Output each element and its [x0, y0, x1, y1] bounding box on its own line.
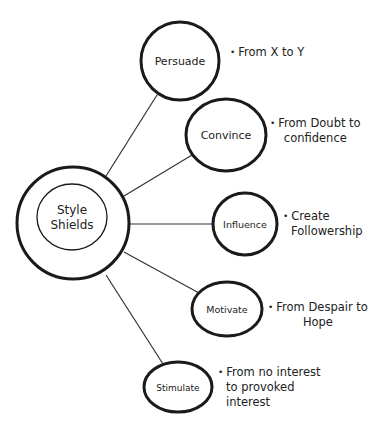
bullet-icon: • — [283, 211, 288, 221]
connector-motivate — [124, 252, 199, 293]
node-label-convince: Convince — [201, 129, 252, 142]
center-label-line1: Style — [57, 203, 87, 217]
note-line: to provoked — [218, 380, 321, 395]
node-label-stimulate: Stimulate — [156, 383, 200, 393]
node-label-persuade: Persuade — [155, 55, 206, 68]
note-stimulate: •From no interest to provoked interest — [218, 365, 321, 410]
note-line: From Despair to — [276, 300, 368, 314]
note-line: From X to Y — [238, 45, 304, 59]
note-motivate: •From Despair to Hope — [268, 300, 368, 330]
center-inner-circle — [37, 184, 107, 250]
connector-convince — [124, 155, 192, 196]
note-convince: •From Doubt to confidence — [270, 116, 361, 146]
node-label-influence: Influence — [223, 219, 267, 230]
note-line: Followership — [283, 224, 363, 239]
bullet-icon: • — [270, 118, 275, 128]
bullet-icon: • — [268, 302, 273, 312]
center-label-line2: Shields — [50, 218, 93, 232]
note-line: Hope — [268, 315, 368, 330]
bullet-icon: • — [230, 47, 235, 57]
note-line: From no interest — [226, 365, 320, 379]
note-line: From Doubt to — [278, 116, 360, 130]
note-line: confidence — [270, 131, 361, 146]
note-influence: •Create Followership — [283, 209, 363, 239]
note-line: Create — [291, 209, 329, 223]
connector-persuade — [106, 95, 157, 176]
note-persuade: •From X to Y — [230, 45, 304, 60]
bullet-icon: • — [218, 367, 223, 377]
connector-stimulate — [106, 275, 163, 364]
note-line: interest — [218, 395, 321, 410]
node-label-motivate: Motivate — [206, 304, 248, 315]
